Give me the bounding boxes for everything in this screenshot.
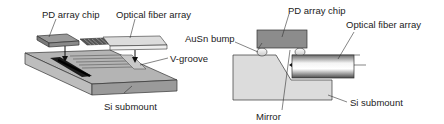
pd-array-chip-3d [37, 34, 79, 47]
label-si-submount-left: Si submount [104, 101, 157, 112]
label-ausn-bump: AuSn bump [185, 33, 235, 44]
optical-fiber-array-3d [80, 36, 167, 50]
label-pd-array-chip-right: PD array chip [288, 5, 346, 16]
label-mirror: Mirror [256, 111, 281, 122]
optical-fiber-cross-section [289, 55, 366, 78]
label-optical-fiber-array-right: Optical fiber array [346, 19, 421, 30]
label-optical-fiber-array-left: Optical fiber array [116, 9, 191, 20]
diagram-canvas: PD array chip Optical fiber array V-groo… [0, 0, 444, 124]
label-pd-array-chip-left: PD array chip [42, 9, 100, 20]
left-panel-perspective: PD array chip Optical fiber array V-groo… [25, 9, 208, 112]
label-si-submount-right: Si submount [350, 97, 403, 108]
pd-array-chip-cross-section [257, 30, 307, 48]
right-panel-cross-section: PD array chip Optical fiber array AuSn b… [185, 5, 421, 122]
label-v-groove: V-groove [170, 53, 208, 64]
si-submount-slab [25, 50, 177, 95]
ausn-bump-left [257, 48, 267, 56]
